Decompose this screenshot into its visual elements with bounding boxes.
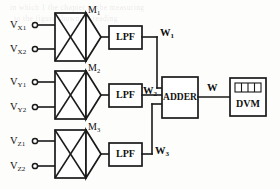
signal-label-w: W bbox=[207, 83, 218, 94]
signal-label-w3-sub: 3 bbox=[166, 150, 170, 158]
terminal-vy2[interactable] bbox=[32, 104, 37, 109]
dvm-label: DVM bbox=[230, 99, 266, 109]
multiplier-label-m1: M1 bbox=[88, 5, 100, 15]
input-label-vx2: VX2 bbox=[10, 44, 26, 55]
input-label-vy1-sub: Y1 bbox=[18, 81, 27, 89]
input-label-vz2: VZ2 bbox=[10, 161, 25, 172]
multiplier-m2-triangle bbox=[86, 71, 101, 119]
signal-label-w1-sub: 1 bbox=[171, 32, 175, 40]
terminal-vy1[interactable] bbox=[32, 79, 37, 84]
multiplier-label-m1-sub: 1 bbox=[97, 9, 100, 16]
signal-label-w2-sub: 2 bbox=[154, 90, 158, 98]
input-label-vx2-sub: X2 bbox=[18, 48, 27, 56]
lpf3-label: LPF bbox=[109, 149, 142, 159]
signal-label-w2-base: W bbox=[143, 85, 154, 96]
multiplier-label-m3-base: M bbox=[88, 121, 97, 132]
signal-label-w-base: W bbox=[207, 82, 218, 93]
input-label-vy1: VY1 bbox=[10, 77, 26, 88]
input-label-vy2: VY2 bbox=[10, 102, 26, 113]
block-diagram: in which 1 the chapter of the measuring … bbox=[0, 0, 280, 189]
input-label-vz1: VZ1 bbox=[10, 136, 25, 147]
input-label-vy1-base: V bbox=[10, 76, 18, 87]
multiplier-m3-triangle bbox=[86, 130, 101, 178]
signal-label-w1-base: W bbox=[160, 27, 171, 38]
multiplier-label-m3-sub: 3 bbox=[97, 126, 100, 133]
input-label-vz2-base: V bbox=[10, 160, 18, 171]
signal-label-w3: W3 bbox=[155, 146, 169, 157]
multiplier-label-m3: M3 bbox=[88, 122, 100, 132]
multiplier-label-m2: M2 bbox=[88, 63, 100, 73]
terminal-vz1[interactable] bbox=[32, 138, 37, 143]
signal-label-w1: W1 bbox=[160, 28, 174, 39]
input-label-vx1-sub: X1 bbox=[18, 24, 27, 32]
multiplier-m1-triangle bbox=[86, 13, 101, 61]
terminal-vz2[interactable] bbox=[32, 163, 37, 168]
multiplier-label-m2-base: M bbox=[88, 62, 97, 73]
terminal-vx2[interactable] bbox=[32, 46, 37, 51]
lpf2-label: LPF bbox=[109, 90, 142, 100]
adder-label: ADDER bbox=[160, 93, 200, 103]
input-label-vy2-sub: Y2 bbox=[18, 106, 27, 114]
signal-label-w2: W2 bbox=[143, 86, 157, 97]
terminal-vx1[interactable] bbox=[32, 22, 37, 27]
lpf1-label: LPF bbox=[109, 32, 142, 42]
signal-label-w3-base: W bbox=[155, 145, 166, 156]
input-label-vx1: VX1 bbox=[10, 20, 26, 31]
input-label-vz1-base: V bbox=[10, 135, 18, 146]
input-label-vz1-sub: Z1 bbox=[18, 140, 26, 148]
input-label-vz2-sub: Z2 bbox=[18, 165, 26, 173]
input-label-vy2-base: V bbox=[10, 101, 18, 112]
multiplier-label-m2-sub: 2 bbox=[97, 67, 100, 74]
input-label-vx1-base: V bbox=[10, 19, 18, 30]
input-label-vx2-base: V bbox=[10, 43, 18, 54]
multiplier-label-m1-base: M bbox=[88, 4, 97, 15]
